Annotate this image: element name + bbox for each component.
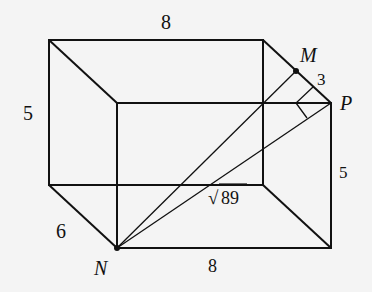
label-depth-6: 6 [56,220,66,242]
label-bottom-8: 8 [208,256,217,276]
edge-top-left [49,40,117,103]
segment-nm [117,71,296,248]
label-top-8: 8 [161,11,171,33]
label-mp-3: 3 [317,70,326,89]
prism-diagram: 8 5 5 6 8 3 M P N √ 89 [0,0,372,292]
point-m [293,68,299,74]
label-diagonal: 89 [221,188,239,208]
back-face [49,40,263,185]
edge-bottom-right [263,185,331,248]
label-left-5: 5 [23,102,33,124]
label-n: N [93,257,109,279]
point-n [114,245,120,251]
label-p: P [339,92,352,114]
segment-np [117,103,331,248]
label-radical-sign: √ [208,187,219,208]
label-right-5: 5 [339,163,348,182]
label-m: M [299,44,318,66]
